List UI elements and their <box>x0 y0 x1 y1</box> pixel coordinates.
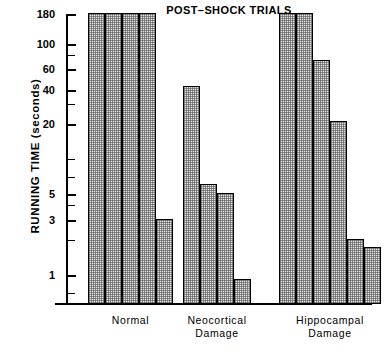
bar <box>139 13 156 304</box>
y-tick-major <box>68 124 76 126</box>
y-tick-label: 100 <box>37 38 55 49</box>
y-tick-minor <box>68 240 75 241</box>
plot-area: POST–SHOCK TRIALS 180100604020531 Normal… <box>66 14 372 304</box>
y-tick-minor <box>68 205 75 206</box>
bar <box>364 247 381 304</box>
bar <box>234 279 251 304</box>
y-tick-minor <box>68 177 75 178</box>
bar <box>313 60 330 304</box>
y-tick-major <box>68 69 76 71</box>
y-tick-major <box>68 90 76 92</box>
x-axis-group-label: Hippocampal Damage <box>257 314 388 340</box>
bar <box>200 184 217 304</box>
bar <box>88 13 105 304</box>
y-tick-minor <box>68 104 75 105</box>
bar-group <box>183 13 251 304</box>
y-tick-label: 1 <box>49 269 55 280</box>
y-tick-major <box>68 275 76 277</box>
y-tick-minor <box>68 159 75 160</box>
bar <box>183 86 200 304</box>
bar <box>347 239 364 304</box>
bar-group <box>88 13 173 304</box>
bar <box>122 13 139 304</box>
y-tick-minor <box>68 293 75 294</box>
bar <box>217 193 234 304</box>
y-tick-major <box>68 44 76 46</box>
chart-figure: RUNNING TIME (seconds) POST–SHOCK TRIALS… <box>0 0 388 364</box>
y-tick-major <box>68 14 76 16</box>
bar <box>156 219 173 304</box>
y-axis-title: RUNNING TIME (seconds) <box>29 36 41 276</box>
y-tick-label: 20 <box>43 119 55 130</box>
bar-group <box>279 13 381 304</box>
y-tick-label: 40 <box>43 84 55 95</box>
bar <box>105 13 122 304</box>
y-tick-label: 3 <box>49 214 55 225</box>
bar <box>330 121 347 304</box>
y-tick-major <box>68 194 76 196</box>
bar <box>279 13 296 304</box>
y-tick-major <box>68 220 76 222</box>
bar <box>296 13 313 304</box>
y-tick-label: 60 <box>43 64 55 75</box>
y-tick-label: 5 <box>49 189 55 200</box>
y-tick-label: 180 <box>37 9 55 20</box>
y-tick-minor <box>68 55 75 56</box>
